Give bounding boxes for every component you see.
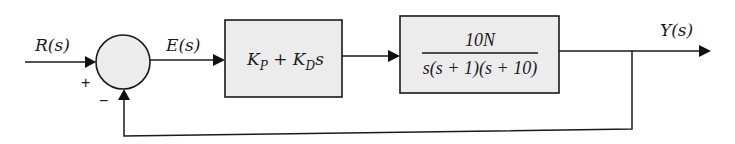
plant-denominator: s(s + 1)(s + 10) — [423, 58, 537, 79]
controller-output-signal — [342, 50, 400, 62]
error-signal: E(s) — [150, 35, 225, 66]
plant-numerator-text: 10N — [465, 30, 496, 50]
output-label: Y(s) — [660, 20, 693, 40]
input-arrow-icon — [85, 56, 96, 68]
error-arrow-icon — [213, 54, 225, 66]
minus-sign: − — [99, 92, 108, 109]
feedback-arrow-icon — [118, 89, 130, 100]
summing-junction: + − — [81, 35, 150, 109]
block-diagram: R(s) + − E(s) KP + KDs 10N s(s + 1)(s + … — [0, 0, 735, 144]
input-signal: R(s) — [25, 35, 96, 68]
controller-block: KP + KDs — [225, 20, 342, 97]
summing-circle — [96, 35, 150, 89]
output-signal: Y(s) — [559, 20, 711, 57]
plant-input-arrow-icon — [388, 50, 400, 62]
plus-sign: + — [81, 74, 90, 91]
error-label: E(s) — [165, 35, 200, 55]
output-arrow-icon — [699, 45, 711, 57]
plant-block: 10N s(s + 1)(s + 10) — [400, 16, 559, 93]
plant-box — [400, 16, 559, 93]
input-label: R(s) — [34, 35, 70, 55]
